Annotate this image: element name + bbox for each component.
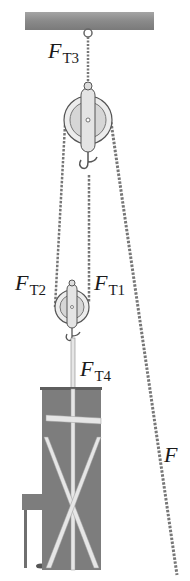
pull-rope-f: [111, 122, 177, 575]
label-ft3-main: F: [48, 38, 61, 63]
label-ft2-main: F: [15, 270, 28, 295]
label-ft3: FT3: [48, 40, 79, 62]
label-ft2-sub: T2: [29, 282, 46, 298]
rope-ft4: [71, 338, 75, 388]
label-ft4-main: F: [80, 356, 93, 381]
rope-ft2: [55, 125, 65, 307]
label-ft4-sub: T4: [94, 368, 111, 384]
upper-pulley: [64, 82, 112, 168]
lower-pulley: [55, 280, 89, 341]
label-ft2: FT2: [15, 272, 46, 294]
label-ft3-sub: T3: [62, 50, 79, 66]
label-ft1-main: F: [94, 270, 107, 295]
label-ft1: FT1: [94, 272, 125, 294]
rope-ft3: [84, 29, 92, 88]
ceiling-beam: [25, 12, 154, 30]
label-ft4: FT4: [80, 358, 111, 380]
piano: [22, 387, 102, 570]
label-f-main: F: [164, 442, 177, 467]
hook-icon: [80, 152, 97, 168]
label-f: F: [164, 444, 177, 466]
label-ft1-sub: T1: [108, 282, 125, 298]
